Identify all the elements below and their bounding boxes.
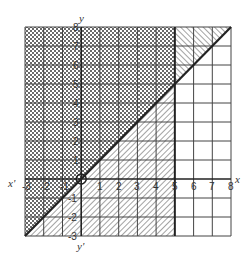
y-tick: 4	[73, 98, 79, 109]
x-tick: -2	[41, 181, 50, 192]
x-tick: 8	[228, 181, 234, 192]
x-tick: 5	[172, 181, 178, 192]
x-tick: 6	[191, 181, 197, 192]
y-tick: 6	[73, 60, 79, 71]
inequality-graph: y y' x x' -3 -2 -1 1 2 3 4 5 6 7 8 8 7 6…	[0, 0, 249, 269]
y-tick: 3	[73, 117, 79, 128]
y-tick: 2	[73, 136, 79, 147]
x-tick: 2	[116, 181, 122, 192]
x-tick: 4	[153, 181, 159, 192]
y-tick: -2	[68, 212, 77, 223]
y-tick: -1	[68, 193, 77, 204]
y-tick: 8	[73, 22, 79, 33]
y-axis-label: y	[78, 12, 84, 24]
x-axis-label: x	[234, 173, 240, 185]
y-tick: -3	[68, 231, 77, 242]
y-tick: 5	[73, 79, 79, 90]
x-tick: 7	[209, 181, 215, 192]
x-tick: -3	[22, 181, 31, 192]
y-tick: 1	[73, 155, 79, 166]
y-prime-label: y'	[76, 240, 85, 252]
x-prime-label: x'	[7, 177, 16, 189]
x-tick: 3	[134, 181, 140, 192]
x-tick: 1	[97, 181, 103, 192]
x-tick: -1	[60, 181, 69, 192]
y-tick: 7	[73, 41, 79, 52]
